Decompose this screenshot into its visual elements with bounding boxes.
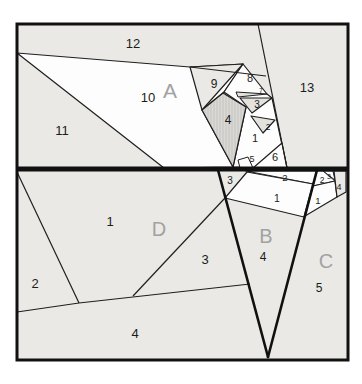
label-a-4: 4 xyxy=(225,113,232,127)
label-a-9: 9 xyxy=(211,77,218,91)
label-a-3: 3 xyxy=(254,99,260,110)
label-a-10: 10 xyxy=(141,90,155,105)
label-section-a: A xyxy=(163,79,177,102)
label-d-2: 2 xyxy=(31,276,38,291)
label-b-4: 4 xyxy=(260,250,267,264)
label-a-1: 1 xyxy=(252,132,258,144)
label-a-6: 6 xyxy=(272,151,278,163)
label-c-2: 2 xyxy=(320,175,325,185)
label-a-5: 5 xyxy=(249,154,254,164)
label-c-3: 3 xyxy=(327,173,331,180)
label-section-c: C xyxy=(319,250,333,272)
label-section-d: D xyxy=(152,218,166,240)
label-d-1: 1 xyxy=(106,214,113,229)
label-a-8: 8 xyxy=(247,72,253,84)
label-c-5: 5 xyxy=(316,281,323,295)
label-a-11: 11 xyxy=(55,123,69,138)
label-section-b: B xyxy=(259,225,272,247)
label-a-13: 13 xyxy=(300,80,314,95)
label-c-4: 4 xyxy=(336,182,341,192)
label-b-2: 2 xyxy=(282,172,287,183)
label-a-2: 2 xyxy=(266,122,271,132)
label-b-1: 1 xyxy=(274,192,280,204)
pattern-page: 12 13 11 10 A 9 8 7 3 4 2 1 5 6 3 2 1 B … xyxy=(0,0,362,384)
label-a-12: 12 xyxy=(126,36,140,51)
label-a-7: 7 xyxy=(259,87,263,94)
label-d-4: 4 xyxy=(131,326,138,341)
label-b-3: 3 xyxy=(227,175,233,186)
label-c-1: 1 xyxy=(315,195,320,206)
label-d-3: 3 xyxy=(201,252,208,267)
piecing-pattern-diagram: 12 13 11 10 A 9 8 7 3 4 2 1 5 6 3 2 1 B … xyxy=(0,0,362,384)
